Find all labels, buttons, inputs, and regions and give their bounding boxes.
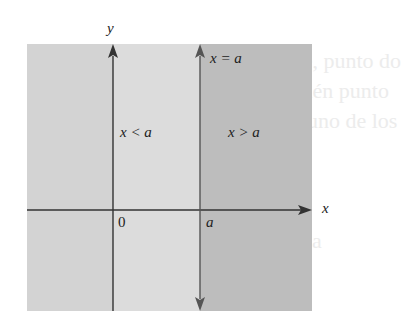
x-axis-label: x bbox=[322, 200, 329, 217]
y-axis-arrow-icon bbox=[108, 44, 118, 58]
region-right-label: x > a bbox=[228, 124, 260, 141]
line-bottom-arrow-icon bbox=[195, 297, 205, 311]
line-equation-label: x = a bbox=[210, 50, 242, 67]
tick-label-a: a bbox=[206, 214, 214, 231]
origin-label: 0 bbox=[118, 214, 126, 231]
line-top-arrow-icon bbox=[195, 44, 205, 58]
region-left-label: x < a bbox=[120, 124, 152, 141]
y-axis-label: y bbox=[107, 20, 114, 37]
